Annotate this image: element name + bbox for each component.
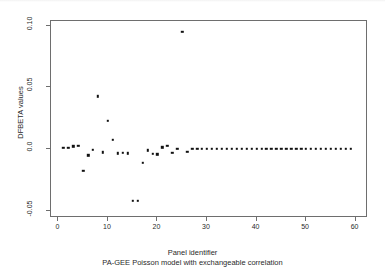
data-point (240, 148, 242, 150)
x-axis-tick-label: 50 (293, 223, 317, 230)
data-point (176, 148, 178, 150)
data-point (221, 148, 223, 150)
data-point (255, 148, 257, 150)
data-point (305, 148, 307, 150)
data-point (231, 148, 233, 150)
x-axis-tick (305, 217, 306, 221)
data-point (127, 152, 129, 154)
x-axis-tick (107, 217, 108, 221)
data-point (260, 148, 262, 150)
data-point (325, 148, 327, 150)
data-point (82, 169, 84, 171)
data-point (107, 120, 109, 122)
data-point (315, 148, 317, 150)
x-axis-tick (57, 217, 58, 221)
data-point (226, 148, 228, 150)
x-axis-tick-label: 60 (343, 223, 367, 230)
data-point (112, 139, 114, 141)
y-axis-title: DFBETA values (16, 65, 25, 161)
data-point (87, 154, 89, 156)
x-axis-tick-label: 40 (244, 223, 268, 230)
data-point (335, 148, 337, 150)
data-point (166, 144, 168, 146)
data-point (265, 148, 267, 150)
data-point (146, 149, 148, 151)
scatter-points-layer (51, 21, 366, 216)
data-point (206, 148, 208, 150)
data-point (171, 152, 173, 154)
x-axis-title: Panel identifier (0, 248, 385, 257)
data-point (181, 31, 183, 33)
data-point (151, 153, 153, 155)
x-axis-tick-label: 0 (45, 223, 69, 230)
data-point (92, 149, 94, 151)
data-point (250, 148, 252, 150)
y-axis-tick-label: -0.05 (26, 195, 33, 221)
y-axis-tick-label: 0.05 (26, 72, 33, 98)
data-point (349, 148, 351, 150)
data-point (216, 148, 218, 150)
data-point (285, 148, 287, 150)
data-point (122, 152, 124, 154)
data-point (196, 148, 198, 150)
data-point (340, 148, 342, 150)
data-point (97, 95, 99, 97)
x-axis-tick-label: 10 (95, 223, 119, 230)
data-point (132, 200, 134, 202)
data-point (201, 148, 203, 150)
data-point (67, 146, 69, 148)
x-axis-tick (156, 217, 157, 221)
data-point (191, 148, 193, 150)
data-point (141, 162, 143, 164)
data-point (245, 148, 247, 150)
data-point (236, 148, 238, 150)
x-axis-tick (355, 217, 356, 221)
data-point (62, 147, 64, 149)
x-axis-tick (256, 217, 257, 221)
data-point (136, 200, 138, 202)
y-axis-tick-label: 0.10 (26, 10, 33, 36)
data-point (280, 148, 282, 150)
data-point (117, 152, 119, 154)
y-axis-tick-label: 0.0 (26, 134, 33, 160)
data-point (290, 148, 292, 150)
data-point (77, 145, 79, 147)
chart-canvas: DFBETA values 0.100.050.0-0.05 010203040… (0, 0, 385, 277)
data-point (186, 150, 188, 152)
data-point (310, 148, 312, 150)
x-axis-subtitle: PA-GEE Poisson model with exchangeable c… (0, 258, 385, 267)
data-point (270, 148, 272, 150)
data-point (300, 148, 302, 150)
data-point (295, 148, 297, 150)
image-top-edge (0, 0, 385, 2)
data-point (330, 148, 332, 150)
x-axis-tick-label: 30 (194, 223, 218, 230)
data-point (156, 153, 158, 155)
data-point (161, 146, 163, 148)
data-point (211, 148, 213, 150)
data-point (320, 148, 322, 150)
x-axis-tick-label: 20 (144, 223, 168, 230)
data-point (275, 148, 277, 150)
x-axis-tick (206, 217, 207, 221)
data-point (72, 145, 74, 147)
data-point (102, 151, 104, 153)
plot-area (50, 20, 367, 217)
data-point (345, 148, 347, 150)
